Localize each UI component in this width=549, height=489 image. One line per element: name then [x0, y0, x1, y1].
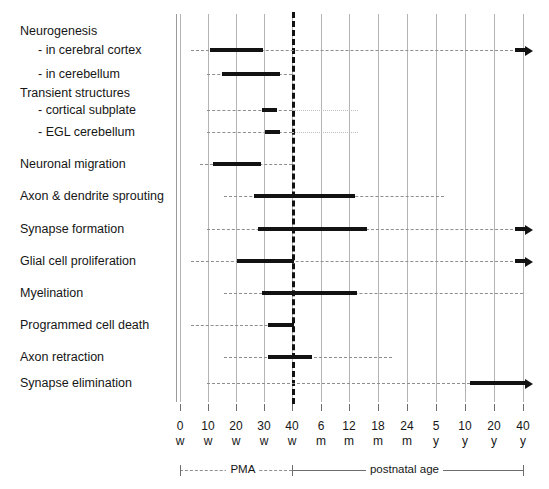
axis-tick-6m: [321, 404, 322, 411]
period-cap-end: [523, 465, 524, 476]
axis-tick-10y: [465, 404, 466, 411]
axis-tick-40y: [523, 404, 524, 411]
period-cap-start: [292, 465, 293, 476]
axis-tick-number-20w: 20: [221, 419, 251, 433]
period-label-pma: PMA: [226, 463, 259, 475]
row-bar-5: [265, 130, 280, 134]
axis-tick-number-12m: 12: [334, 419, 364, 433]
row-track-4: [207, 110, 292, 111]
axis-tick-number-0w: 0: [165, 419, 195, 433]
axis-tick-10w: [208, 404, 209, 411]
gridline-10w: [208, 14, 209, 402]
axis-tick-18m: [378, 404, 379, 411]
axis-tick-30w: [264, 404, 265, 411]
axis-tick-40w: [292, 404, 293, 411]
row-bar-13: [470, 381, 521, 385]
axis-tick-20y: [494, 404, 495, 411]
axis-tick-unit-20y: y: [479, 434, 509, 448]
axis-tick-0w: [180, 404, 181, 411]
axis-tick-number-10w: 10: [193, 419, 223, 433]
axis-tick-24m: [407, 404, 408, 411]
axis-tick-number-10y: 10: [450, 419, 480, 433]
axis-tick-12m: [349, 404, 350, 411]
row-bar-12: [268, 355, 312, 359]
row-bar-4: [262, 108, 277, 112]
gridline-10y: [465, 14, 466, 402]
row-bar-8: [258, 227, 367, 231]
axis-tick-unit-10w: w: [193, 434, 223, 448]
axis-tick-unit-40y: y: [508, 434, 538, 448]
arrow-shaft-13: [515, 381, 527, 385]
gridline-6m: [321, 14, 322, 402]
row-dotted-extension-4: [292, 110, 358, 111]
developmental-timeline-figure: Neurogenesis- in cerebral cortex- in cer…: [0, 0, 549, 489]
gridline-20y: [494, 14, 495, 402]
axis-tick-number-24m: 24: [392, 419, 422, 433]
gridline-0w: [180, 14, 181, 402]
row-bar-2: [222, 72, 280, 76]
gridline-12m: [349, 14, 350, 402]
axis-tick-number-6m: 6: [306, 419, 336, 433]
row-bar-11: [268, 323, 294, 327]
axis-tick-unit-24m: m: [392, 434, 422, 448]
arrow-shaft-8: [515, 227, 527, 231]
timeline-plot-area: [0, 0, 549, 410]
axis-tick-unit-12m: m: [334, 434, 364, 448]
axis-tick-number-18m: 18: [363, 419, 393, 433]
row-bar-7: [254, 194, 355, 198]
gridline-24m: [407, 14, 408, 402]
axis-tick-unit-20w: w: [221, 434, 251, 448]
axis-tick-number-20y: 20: [479, 419, 509, 433]
arrow-shaft-9: [515, 259, 527, 263]
axis-tick-number-40y: 40: [508, 419, 538, 433]
birth-marker-line: [292, 12, 295, 404]
axis-tick-unit-10y: y: [450, 434, 480, 448]
gridline-18m: [378, 14, 379, 402]
axis-tick-unit-30w: w: [249, 434, 279, 448]
axis-tick-unit-40w: w: [277, 434, 307, 448]
row-dotted-extension-5: [292, 132, 358, 133]
axis-tick-unit-6m: m: [306, 434, 336, 448]
row-track-13: [207, 383, 470, 384]
axis-tick-number-40w: 40: [277, 419, 307, 433]
row-bar-6: [213, 162, 261, 166]
period-cap-start: [180, 465, 181, 476]
arrow-shaft-1: [515, 48, 527, 52]
axis-tick-unit-5y: y: [421, 434, 451, 448]
axis-tick-number-5y: 5: [421, 419, 451, 433]
period-label-postnatal-age: postnatal age: [366, 463, 443, 475]
axis-tick-20w: [236, 404, 237, 411]
axis-tick-number-30w: 30: [249, 419, 279, 433]
axis-tick-unit-18m: m: [363, 434, 393, 448]
row-bar-10: [262, 291, 357, 295]
axis-tick-5y: [436, 404, 437, 411]
gridline-40y: [523, 14, 524, 402]
axis-tick-unit-0w: w: [165, 434, 195, 448]
row-bar-1: [210, 48, 263, 52]
gridline-5y: [436, 14, 437, 402]
row-bar-9: [237, 259, 294, 263]
